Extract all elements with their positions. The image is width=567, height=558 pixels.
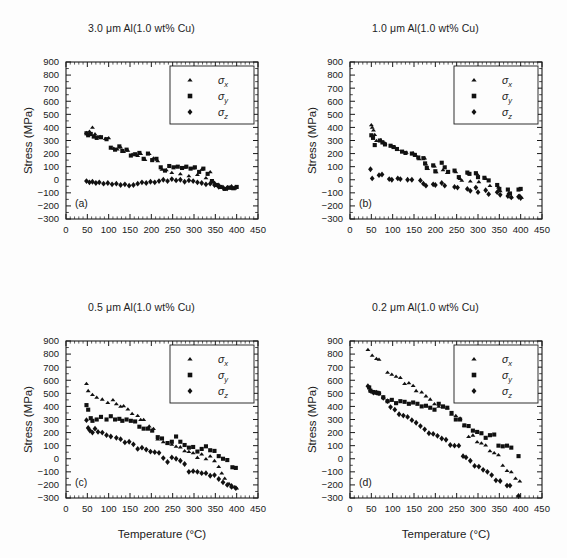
svg-text:100: 100: [43, 440, 59, 451]
svg-text:300: 300: [470, 224, 486, 235]
svg-text:−300: −300: [38, 213, 59, 224]
svg-text:800: 800: [43, 348, 59, 359]
svg-text:900: 900: [327, 56, 343, 67]
plot-svg-b: 9008007006005004003002001000−100−200−300…: [284, 0, 567, 279]
svg-text:Stress (MPa): Stress (MPa): [22, 386, 34, 453]
svg-text:400: 400: [229, 224, 245, 235]
svg-text:−200: −200: [38, 200, 59, 211]
svg-text:700: 700: [43, 362, 59, 373]
svg-text:900: 900: [43, 56, 59, 67]
svg-text:100: 100: [327, 161, 343, 172]
panel-c: 0.5 μm Al(1.0 wt% Cu)9008007006005004003…: [0, 279, 283, 558]
svg-text:100: 100: [101, 503, 117, 514]
svg-text:500: 500: [43, 109, 59, 120]
svg-text:600: 600: [43, 375, 59, 386]
svg-text:−300: −300: [322, 213, 343, 224]
plot-svg-c: 9008007006005004003002001000−100−200−300…: [0, 279, 283, 558]
svg-text:150: 150: [122, 224, 138, 235]
svg-text:400: 400: [327, 122, 343, 133]
svg-text:400: 400: [43, 401, 59, 412]
svg-text:350: 350: [207, 224, 223, 235]
svg-text:(d): (d): [359, 476, 372, 488]
svg-text:150: 150: [122, 503, 138, 514]
svg-text:−100: −100: [38, 187, 59, 198]
svg-text:200: 200: [427, 224, 443, 235]
svg-text:200: 200: [143, 224, 159, 235]
svg-text:100: 100: [101, 224, 117, 235]
svg-text:500: 500: [327, 388, 343, 399]
svg-text:800: 800: [327, 348, 343, 359]
svg-text:700: 700: [43, 83, 59, 94]
svg-text:600: 600: [327, 375, 343, 386]
svg-text:100: 100: [327, 440, 343, 451]
svg-text:50: 50: [366, 224, 377, 235]
svg-text:0: 0: [63, 224, 68, 235]
svg-text:400: 400: [513, 224, 529, 235]
svg-text:300: 300: [327, 135, 343, 146]
svg-text:100: 100: [385, 224, 401, 235]
svg-text:500: 500: [43, 388, 59, 399]
plot-area: 9008007006005004003002001000−100−200−300…: [284, 0, 567, 279]
plot-area: 9008007006005004003002001000−100−200−300…: [0, 0, 283, 279]
svg-text:−200: −200: [322, 200, 343, 211]
svg-text:700: 700: [327, 83, 343, 94]
svg-text:0: 0: [63, 503, 68, 514]
svg-text:250: 250: [165, 503, 181, 514]
svg-text:700: 700: [327, 362, 343, 373]
svg-text:400: 400: [43, 122, 59, 133]
svg-text:150: 150: [406, 224, 422, 235]
svg-text:200: 200: [43, 427, 59, 438]
svg-text:Stress (MPa): Stress (MPa): [306, 107, 318, 174]
svg-text:600: 600: [327, 96, 343, 107]
svg-text:−200: −200: [38, 479, 59, 490]
panel-a: 3.0 μm Al(1.0 wt% Cu)9008007006005004003…: [0, 0, 283, 279]
plot-area: 9008007006005004003002001000−100−200−300…: [284, 279, 567, 558]
svg-text:Temperature (°C): Temperature (°C): [402, 528, 490, 540]
svg-text:0: 0: [54, 453, 59, 464]
svg-text:100: 100: [43, 161, 59, 172]
svg-text:−200: −200: [322, 479, 343, 490]
svg-text:450: 450: [250, 224, 266, 235]
svg-text:Temperature (°C): Temperature (°C): [118, 528, 206, 540]
svg-text:−100: −100: [38, 466, 59, 477]
plot-svg-d: 9008007006005004003002001000−100−200−300…: [284, 279, 567, 558]
svg-text:(c): (c): [75, 476, 87, 488]
svg-text:50: 50: [82, 503, 93, 514]
svg-text:−100: −100: [322, 187, 343, 198]
svg-text:800: 800: [43, 69, 59, 80]
svg-text:0: 0: [347, 224, 352, 235]
svg-text:0: 0: [338, 453, 343, 464]
svg-text:0: 0: [347, 503, 352, 514]
plot-area: 9008007006005004003002001000−100−200−300…: [0, 279, 283, 558]
svg-text:400: 400: [327, 401, 343, 412]
svg-text:350: 350: [207, 503, 223, 514]
svg-text:350: 350: [491, 503, 507, 514]
svg-text:300: 300: [186, 224, 202, 235]
svg-text:−100: −100: [322, 466, 343, 477]
svg-text:450: 450: [250, 503, 266, 514]
svg-text:−300: −300: [38, 492, 59, 503]
svg-text:300: 300: [43, 135, 59, 146]
svg-text:300: 300: [43, 414, 59, 425]
panel-d: 0.2 μm Al(1.0 wt% Cu)9008007006005004003…: [284, 279, 567, 558]
figure-root: 3.0 μm Al(1.0 wt% Cu)9008007006005004003…: [0, 0, 567, 558]
svg-text:450: 450: [534, 503, 550, 514]
svg-text:150: 150: [406, 503, 422, 514]
svg-text:200: 200: [327, 148, 343, 159]
svg-text:400: 400: [229, 503, 245, 514]
svg-text:400: 400: [513, 503, 529, 514]
svg-text:300: 300: [186, 503, 202, 514]
svg-text:250: 250: [449, 224, 465, 235]
svg-text:100: 100: [385, 503, 401, 514]
svg-text:450: 450: [534, 224, 550, 235]
svg-text:0: 0: [338, 174, 343, 185]
svg-text:300: 300: [327, 414, 343, 425]
svg-text:50: 50: [82, 224, 93, 235]
svg-text:200: 200: [427, 503, 443, 514]
svg-text:Stress (MPa): Stress (MPa): [306, 386, 318, 453]
svg-text:800: 800: [327, 69, 343, 80]
svg-text:200: 200: [43, 148, 59, 159]
svg-text:300: 300: [470, 503, 486, 514]
svg-text:250: 250: [449, 503, 465, 514]
panel-b: 1.0 μm Al(1.0 wt% Cu)9008007006005004003…: [284, 0, 567, 279]
